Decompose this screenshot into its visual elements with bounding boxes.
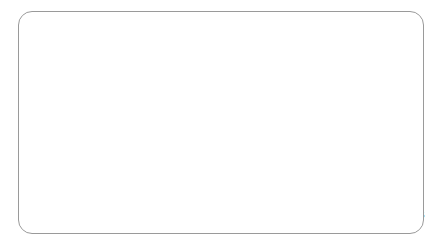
- figure-frame: [18, 11, 424, 234]
- chart-figure: 354045505560651950–551960–651970–751980–…: [0, 0, 435, 245]
